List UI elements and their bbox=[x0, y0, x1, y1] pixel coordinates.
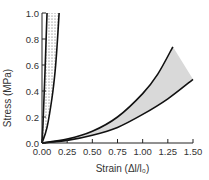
y-tick-label: 0.2 bbox=[26, 112, 39, 123]
plot-area bbox=[42, 13, 193, 143]
x-tick-label: 1.25 bbox=[159, 146, 178, 157]
x-tick-label: 1.50 bbox=[184, 146, 203, 157]
y-tick-label: 0.4 bbox=[26, 86, 39, 97]
x-tick-label: 1.00 bbox=[133, 146, 152, 157]
shallow-band-fill bbox=[42, 47, 193, 143]
y-tick-label: 0.0 bbox=[26, 138, 39, 149]
x-tick-label: 0.50 bbox=[83, 146, 102, 157]
x-tick-label: 0.25 bbox=[58, 146, 77, 157]
x-tick-label: 0.75 bbox=[108, 146, 127, 157]
y-tick-label: 0.8 bbox=[26, 34, 39, 45]
x-axis-label: Strain (Δl/l₀) bbox=[96, 163, 150, 174]
y-axis-label: Stress (MPa) bbox=[2, 69, 13, 127]
y-tick-label: 0.6 bbox=[26, 60, 39, 71]
y-tick-label: 1.0 bbox=[26, 8, 39, 19]
stress-strain-chart: 0.000.250.500.751.001.251.500.00.20.40.6… bbox=[0, 0, 209, 180]
